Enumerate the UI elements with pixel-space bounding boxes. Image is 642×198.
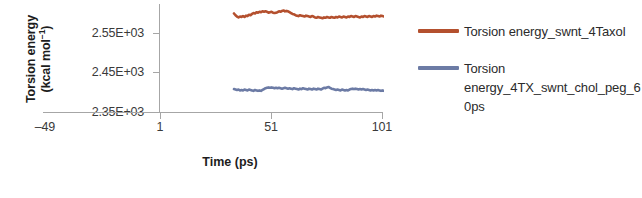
x-axis-tick-mark — [382, 113, 383, 119]
x-tick-label-minus49: –49 — [22, 120, 68, 134]
x-axis-title: Time (ps) — [140, 155, 320, 169]
legend-color-swatch — [418, 66, 459, 70]
y-axis-title-exponent: −1 — [37, 30, 47, 40]
legend-item[interactable]: Torsion energy_4TX_swnt_chol_peg_60ps — [418, 59, 642, 116]
chart-figure: Torsion energy (kcal mol−1) 2.55E+03 2.4… — [0, 0, 642, 198]
plot-area — [159, 4, 384, 112]
y-tick-label-2550: 2.55E+03 — [52, 26, 144, 40]
x-tick-label-51: 51 — [250, 120, 292, 134]
x-axis-line — [43, 112, 383, 113]
x-tick-label-1: 1 — [139, 120, 181, 134]
y-tick-label-2450: 2.45E+03 — [52, 65, 144, 79]
chart-legend: Torsion energy_swnt_4Taxol Torsion energ… — [418, 22, 642, 134]
legend-item-label: Torsion energy_swnt_4Taxol — [464, 22, 642, 41]
data-series-line — [234, 87, 384, 91]
x-tick-label-101: 101 — [359, 120, 405, 134]
x-axis-tick-mark — [271, 113, 272, 119]
legend-item[interactable]: Torsion energy_swnt_4Taxol — [418, 22, 642, 41]
legend-color-swatch — [418, 29, 459, 33]
y-axis-title-line1: Torsion energy — [24, 15, 38, 103]
x-axis-tick-mark — [160, 113, 161, 119]
legend-item-label: Torsion energy_4TX_swnt_chol_peg_60ps — [464, 59, 642, 116]
data-series-line — [234, 10, 384, 18]
